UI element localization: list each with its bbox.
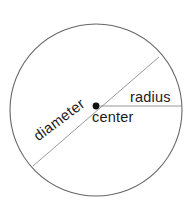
center-label: center bbox=[92, 110, 134, 125]
circle-diagram-canvas bbox=[0, 0, 195, 214]
circle-diagram: radius center diameter bbox=[0, 0, 195, 214]
radius-label: radius bbox=[130, 90, 171, 105]
